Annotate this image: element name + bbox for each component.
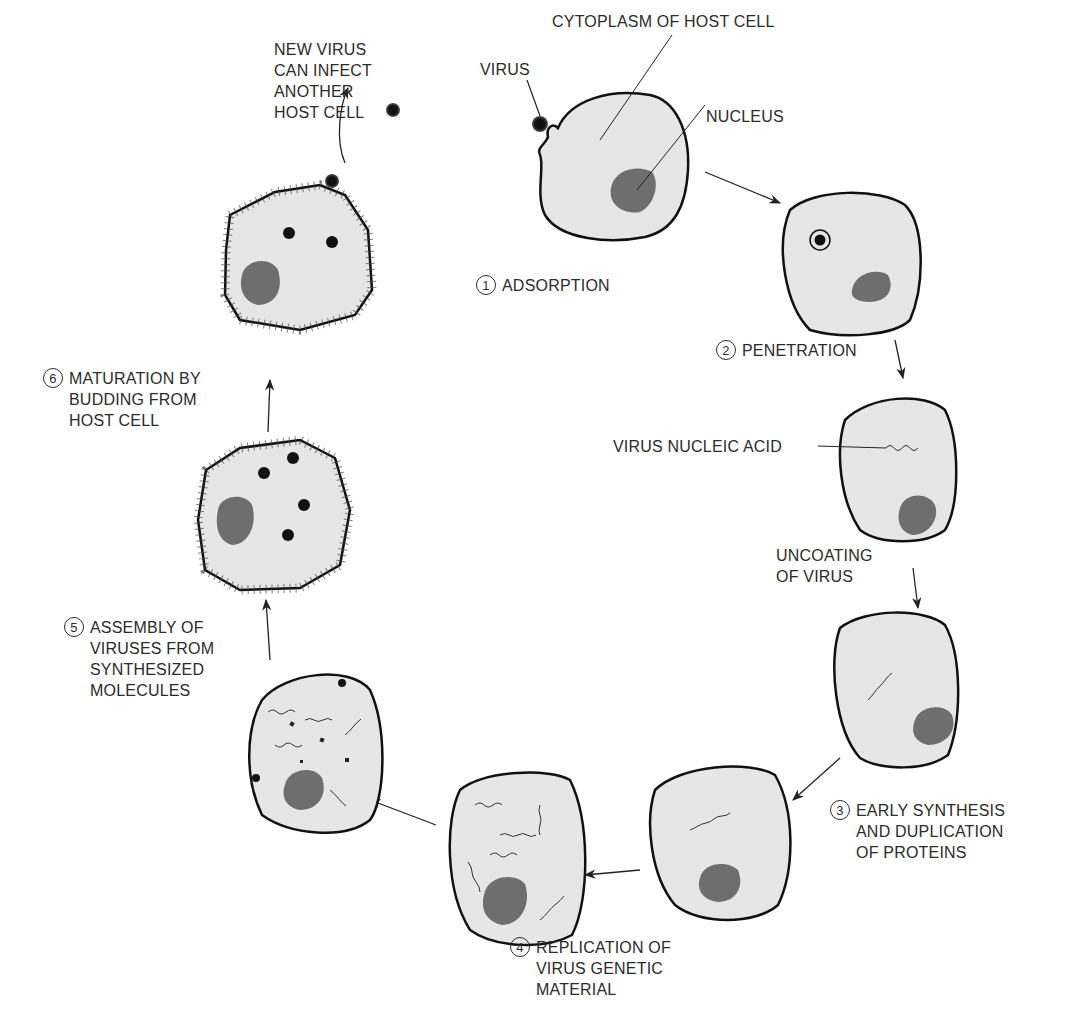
cell-duplication <box>650 767 790 920</box>
label-nucleus: NUCLEUS <box>706 106 784 127</box>
step-number-badge: 4 <box>510 937 530 957</box>
step-label: PENETRATION <box>742 340 857 361</box>
step-number-badge: 5 <box>64 617 84 637</box>
cell-budding <box>198 440 350 590</box>
virus-particle <box>532 116 548 132</box>
label-virus: VIRUS <box>480 59 530 80</box>
label-uncoating: UNCOATING OF VIRUS <box>776 545 873 587</box>
label-new-virus: NEW VIRUS CAN INFECT ANOTHER HOST CELL <box>274 39 372 123</box>
cell-penetration <box>783 193 921 335</box>
cell-adsorption <box>527 35 705 240</box>
budding-virus <box>325 174 339 188</box>
step-number-badge: 2 <box>716 340 736 360</box>
step-6-maturation: 6 MATURATION BY BUDDING FROM HOST CELL <box>43 368 201 431</box>
label-virus-nucleic-acid: VIRUS NUCLEIC ACID <box>613 436 782 457</box>
cell-replication <box>450 773 585 945</box>
cell-assembly <box>249 675 382 833</box>
virus-life-cycle-diagram <box>0 0 1069 1032</box>
cell-early-synthesis <box>834 613 958 768</box>
step-label: ASSEMBLY OF VIRUSES FROM SYNTHESIZED MOL… <box>90 617 214 701</box>
step-3-early-synthesis: 3 EARLY SYNTHESIS AND DUPLICATION OF PRO… <box>830 800 1005 863</box>
cell-uncoating <box>818 399 956 542</box>
step-5-assembly: 5 ASSEMBLY OF VIRUSES FROM SYNTHESIZED M… <box>64 617 214 701</box>
step-label: REPLICATION OF VIRUS GENETIC MATERIAL <box>536 937 671 1000</box>
step-4-replication: 4 REPLICATION OF VIRUS GENETIC MATERIAL <box>510 937 671 1000</box>
step-2-penetration: 2 PENETRATION <box>716 340 857 361</box>
step-number-badge: 1 <box>476 275 496 295</box>
released-virus <box>386 103 400 117</box>
step-label: MATURATION BY BUDDING FROM HOST CELL <box>69 368 201 431</box>
step-label: EARLY SYNTHESIS AND DUPLICATION OF PROTE… <box>856 800 1005 863</box>
cell-mature <box>225 103 400 330</box>
step-number-badge: 3 <box>830 800 850 820</box>
step-label: ADSORPTION <box>502 275 610 296</box>
step-1-adsorption: 1 ADSORPTION <box>476 275 610 296</box>
label-cytoplasm: CYTOPLASM OF HOST CELL <box>552 11 775 32</box>
step-number-badge: 6 <box>43 368 63 388</box>
